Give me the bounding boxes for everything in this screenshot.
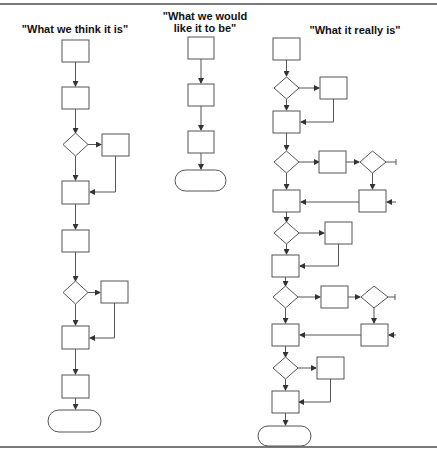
process-box — [62, 375, 89, 398]
decision-diamond — [274, 77, 299, 99]
process-box — [62, 87, 89, 109]
decision-diamond — [273, 286, 298, 308]
process-box — [272, 324, 299, 346]
process-box — [319, 151, 346, 173]
decision-diamond — [273, 357, 298, 379]
terminator — [48, 410, 101, 432]
decision-diamond — [360, 151, 386, 173]
process-box — [325, 222, 352, 244]
process-box — [62, 181, 89, 204]
decision-diamond — [63, 281, 88, 304]
decision-diamond — [63, 133, 88, 156]
decision-diamond — [361, 286, 388, 308]
process-box — [188, 37, 214, 59]
process-box — [317, 357, 344, 379]
process-box — [62, 230, 89, 252]
process-box — [321, 286, 348, 308]
process-box — [359, 190, 386, 212]
process-box — [273, 111, 300, 133]
flowchart-canvas — [0, 0, 437, 464]
process-box — [272, 391, 299, 413]
flow-really — [258, 38, 396, 446]
process-box — [188, 84, 214, 106]
terminator — [258, 426, 311, 446]
process-box — [361, 324, 388, 346]
process-box — [102, 134, 129, 156]
process-box — [273, 190, 300, 212]
process-box — [188, 131, 214, 153]
decision-diamond — [274, 222, 299, 244]
process-box — [320, 77, 347, 99]
decision-diamond — [274, 151, 299, 173]
process-box — [273, 38, 300, 60]
process-box — [101, 281, 128, 303]
process-box — [62, 326, 89, 349]
flow-think — [48, 40, 129, 432]
terminator — [175, 170, 226, 191]
process-box — [62, 40, 89, 62]
process-box — [272, 255, 299, 277]
flow-would-like — [175, 37, 226, 191]
